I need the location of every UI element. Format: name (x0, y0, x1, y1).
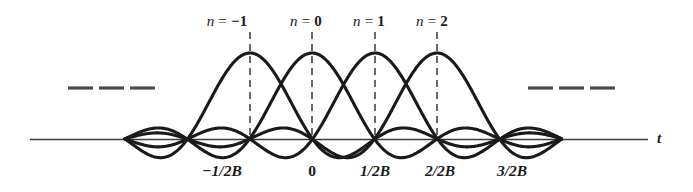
label-n-minus-1-eq: = (214, 13, 231, 29)
tick-label-2-over-2b: 2/2B (425, 163, 455, 179)
tick-label-1-over-2b: 1/2B (360, 163, 390, 179)
axis-label-t: t (657, 131, 661, 146)
tick-label-3-over-2b: 3/2B (497, 163, 527, 179)
label-n-2-eq: = (424, 13, 441, 29)
label-n-minus-1-value: −1 (231, 13, 247, 29)
sinc-curve-group (125, 53, 562, 158)
label-n-1-eq: = (361, 13, 378, 29)
tick-label-zero: 0 (308, 163, 316, 179)
sinc-interpolation-figure: n = −1 n = 0 n = 1 n = 2 −1/2B 0 1/2B 2/… (0, 0, 693, 192)
label-n-0: n = 0 (290, 14, 322, 29)
label-n-0-eq: = (298, 13, 315, 29)
label-n-2-prefix: n (416, 13, 424, 29)
label-n-1: n = 1 (353, 14, 385, 29)
label-n-2: n = 2 (416, 14, 448, 29)
label-n-2-value: 2 (440, 13, 448, 29)
label-n-0-value: 0 (314, 13, 322, 29)
sinc-plot-canvas (0, 0, 693, 192)
label-n-minus-1: n = −1 (207, 14, 248, 29)
tick-label-minus-1-over-2b: −1/2B (202, 163, 242, 179)
label-n-minus-1-prefix: n (207, 13, 215, 29)
label-n-0-prefix: n (290, 13, 298, 29)
label-n-1-prefix: n (353, 13, 361, 29)
label-n-1-value: 1 (377, 13, 385, 29)
